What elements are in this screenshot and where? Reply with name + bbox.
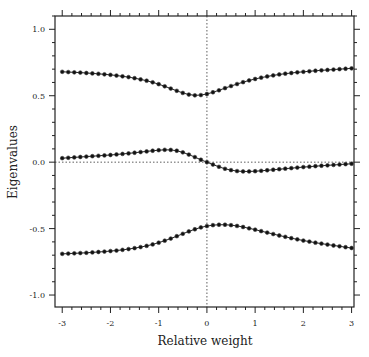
data-point [163,239,167,243]
data-point [295,166,299,170]
data-point [151,243,155,247]
data-point [145,79,149,83]
data-point [277,167,281,171]
data-point [320,68,324,72]
data-point [247,170,251,174]
y-tick-label: -0.5 [30,225,45,234]
data-point [157,82,161,86]
data-point [314,241,318,245]
data-point [181,91,185,95]
data-point [193,155,197,159]
data-point [283,167,287,171]
data-point [163,84,167,88]
data-point [133,246,137,250]
data-point [151,149,155,153]
data-point [66,252,70,256]
data-point [66,70,70,74]
data-point [307,69,311,73]
data-point [332,68,336,72]
data-point [307,240,311,244]
data-series [60,66,353,255]
data-point [103,72,107,76]
data-point [265,168,269,172]
data-point [283,72,287,76]
data-point [187,93,191,97]
data-point [295,70,299,74]
data-point [121,152,125,156]
data-point [97,250,101,254]
data-point [338,244,342,248]
data-point [78,251,82,255]
data-point [133,151,137,155]
data-point [72,155,76,159]
data-point [121,248,125,252]
data-point [211,90,215,94]
series-eigenvalue-2 [60,148,353,173]
data-point [127,75,131,79]
data-point [181,150,185,154]
data-point [344,162,348,166]
data-point [109,153,113,157]
data-point [235,169,239,173]
data-point [289,71,293,75]
data-point [187,229,191,233]
x-tick-label: -1 [155,319,163,328]
data-point [84,71,88,75]
data-point [326,163,330,167]
data-point [253,77,257,81]
data-point [139,77,143,81]
data-point [350,246,354,250]
y-tick-label: 0.5 [32,92,45,101]
data-point [332,163,336,167]
data-point [229,84,233,88]
data-point [205,224,209,228]
data-point [97,72,101,76]
data-point [271,73,275,77]
data-point [103,250,107,254]
data-point [326,243,330,247]
x-tick-label: 1 [253,319,258,328]
data-point [350,162,354,166]
data-point [109,249,113,253]
data-point [307,165,311,169]
data-point [181,232,185,236]
data-point [151,80,155,84]
data-point [253,169,257,173]
data-point [115,153,119,157]
series-eigenvalue-1 [60,66,353,97]
data-point [205,92,209,96]
data-point [350,66,354,70]
data-point [145,150,149,154]
x-tick-label: -3 [58,319,66,328]
data-point [60,252,64,256]
data-point [320,164,324,168]
data-point [217,165,221,169]
data-point [187,153,191,157]
data-point [78,155,82,159]
x-axis-label: Relative weight [158,334,253,348]
data-point [265,231,269,235]
data-point [175,149,179,153]
data-point [127,151,131,155]
data-point [103,153,107,157]
data-point [199,226,203,230]
data-point [115,74,119,78]
y-tick-label: -1.0 [30,291,45,300]
data-point [175,234,179,238]
data-point [259,169,263,173]
data-point [72,251,76,255]
data-point [145,244,149,248]
data-point [344,67,348,71]
data-point [259,229,263,233]
data-point [193,227,197,231]
data-point [169,148,173,152]
data-point [271,168,275,172]
y-tick-label: 0.0 [32,158,45,167]
data-point [199,93,203,97]
data-point [60,156,64,160]
data-point [223,167,227,171]
data-point [301,239,305,243]
data-point [241,225,245,229]
data-point [271,232,275,236]
data-point [229,223,233,227]
